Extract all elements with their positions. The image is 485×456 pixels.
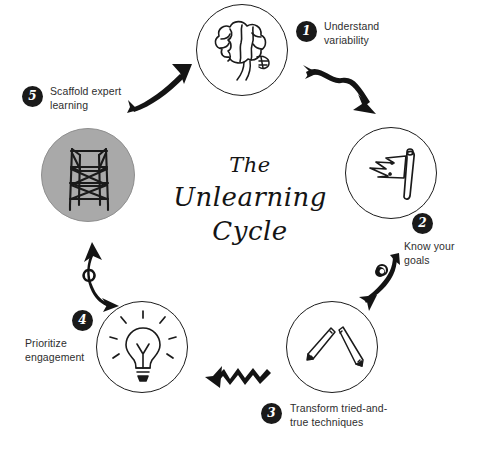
step-caption-4-line2: engagement	[25, 351, 84, 363]
step-caption-3: Transform tried-and- true techniques	[290, 402, 450, 429]
step-node-4[interactable]	[96, 301, 188, 393]
step-node-2[interactable]	[345, 127, 437, 219]
diagram-title-line1: The	[150, 150, 350, 180]
step-caption-1-line2: variability	[324, 34, 369, 46]
step-caption-2: Know your goals	[404, 240, 484, 267]
step-caption-4-line1: Prioritize	[25, 337, 67, 349]
step-badge-4: 4	[72, 310, 93, 331]
step-node-3[interactable]	[286, 301, 378, 393]
step-caption-2-line2: goals	[404, 254, 430, 266]
pencils-icon	[287, 302, 379, 394]
connector-3-to-4	[204, 364, 276, 392]
step-badge-1: 1	[296, 21, 317, 42]
step-caption-5-line2: learning	[50, 99, 88, 111]
step-caption-3-line2: true techniques	[290, 416, 363, 428]
step-caption-1: Understand variability	[324, 20, 424, 47]
step-caption-5-line1: Scaffold expert	[50, 85, 121, 97]
step-badge-2: 2	[412, 213, 433, 234]
flag-icon	[346, 128, 438, 220]
step-node-1[interactable]	[196, 4, 288, 96]
diagram-title-line3: Cycle	[150, 214, 350, 248]
step-caption-2-line1: Know your	[404, 240, 455, 252]
step-badge-3: 3	[261, 403, 282, 424]
unlearning-cycle-diagram: 1 Understand variability 2 Know your goa…	[0, 0, 485, 456]
step-caption-4: Prioritize engagement	[25, 337, 95, 364]
diagram-title: The Unlearning Cycle	[150, 150, 350, 248]
scaffolding-icon	[42, 129, 136, 223]
step-badge-5: 5	[22, 86, 43, 107]
step-node-5[interactable]	[41, 128, 135, 222]
connector-1-to-2	[296, 58, 380, 120]
diagram-title-line2: Unlearning	[150, 180, 350, 214]
step-caption-3-line1: Transform tried-and-	[290, 402, 387, 414]
brain-icon	[197, 5, 289, 97]
lightbulb-icon	[97, 302, 189, 394]
step-caption-5: Scaffold expert learning	[50, 85, 142, 112]
step-caption-1-line1: Understand	[324, 20, 379, 32]
